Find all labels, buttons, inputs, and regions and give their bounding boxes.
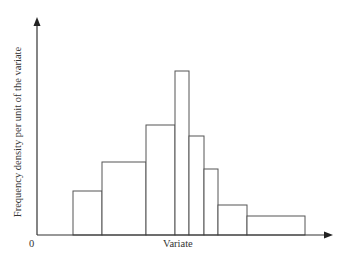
histogram-bar	[175, 71, 189, 235]
histogram-bar	[73, 191, 102, 235]
histogram-bars	[73, 71, 305, 235]
histogram-bar	[146, 125, 175, 235]
histogram-chart	[0, 0, 354, 260]
y-axis-label: Frequency density per unit of the variat…	[12, 12, 24, 252]
histogram-bar	[204, 169, 218, 235]
histogram-bar	[247, 216, 305, 235]
histogram-bar	[218, 205, 247, 235]
y-axis-arrow-icon	[34, 17, 41, 26]
x-axis-label: Variate	[163, 238, 193, 249]
histogram-bar	[189, 136, 204, 235]
histogram-bar	[102, 162, 146, 235]
origin-label: 0	[29, 238, 34, 249]
x-axis-arrow-icon	[324, 232, 333, 239]
